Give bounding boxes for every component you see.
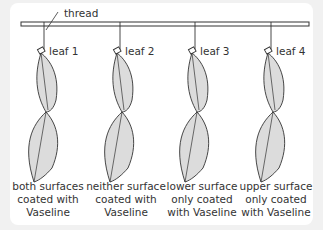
leaf-4-label: leaf 4: [276, 45, 306, 57]
thread-bar: [21, 22, 309, 26]
leaf-1-caption: both surfaces coated with Vaseline: [8, 180, 88, 219]
leaf-4-caption: upper surface only coated with Vaseline: [236, 180, 316, 219]
thread-label: thread: [64, 7, 98, 19]
leaf-2-caption: neither surface coated with Vaseline: [86, 180, 166, 219]
leaf-3-caption: lower surface only coated with Vaseline: [162, 180, 242, 219]
leaf-1-label: leaf 1: [49, 45, 79, 57]
leaf-2-label: leaf 2: [125, 45, 155, 57]
thread-pointer: [46, 12, 58, 30]
leaf-3-label: leaf 3: [200, 45, 230, 57]
